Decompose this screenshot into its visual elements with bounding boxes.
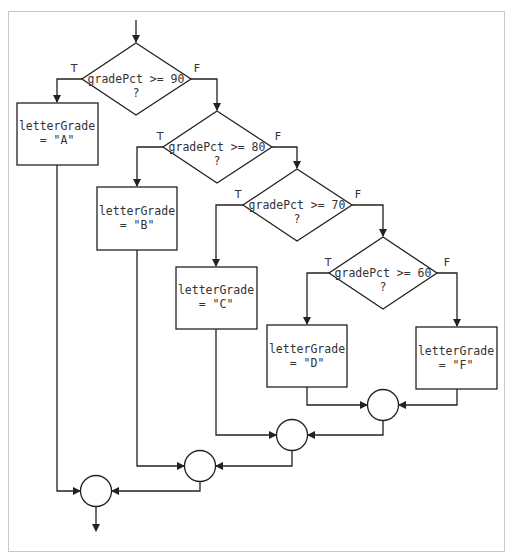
- junction-connector-1: [368, 390, 399, 421]
- false-label: F: [444, 256, 450, 269]
- process-assignment: = "D": [290, 356, 325, 370]
- edge-d4-true: [307, 273, 329, 324]
- decision-question-mark: ?: [214, 154, 221, 168]
- edge-d3-false: [352, 205, 383, 236]
- process-variable: letterGrade: [269, 342, 345, 356]
- process-assignment: = "B": [120, 218, 155, 232]
- process-variable: letterGrade: [19, 119, 95, 133]
- process-assignment: = "A": [40, 133, 75, 147]
- edge-d2-false: [272, 147, 297, 168]
- decision-node-60: gradePct >= 60 ?: [329, 237, 437, 309]
- process-variable: letterGrade: [178, 283, 254, 297]
- process-variable: letterGrade: [99, 204, 175, 218]
- process-node-b: letterGrade = "B": [97, 187, 177, 250]
- false-label: F: [275, 130, 281, 143]
- edge-d1-true: [57, 79, 82, 102]
- edge-j3-to-j4: [112, 482, 200, 491]
- decision-condition: gradePct >= 60: [335, 266, 432, 280]
- edge-j1-to-j2: [308, 421, 383, 435]
- false-label: F: [194, 62, 200, 75]
- true-label: T: [156, 130, 164, 143]
- false-label: F: [355, 188, 361, 201]
- decision-question-mark: ?: [294, 212, 301, 226]
- process-assignment: = "F": [439, 358, 474, 372]
- edge-d2-true: [137, 147, 163, 186]
- flowchart: gradePct >= 90 ? T F letterGrade = "A" g…: [0, 0, 517, 555]
- junction-connector-4: [81, 476, 112, 507]
- true-label: T: [234, 188, 242, 201]
- process-node-a: letterGrade = "A": [17, 103, 98, 165]
- process-node-c: letterGrade = "C": [176, 267, 257, 329]
- true-label: T: [324, 256, 332, 269]
- decision-condition: gradePct >= 70: [249, 198, 346, 212]
- process-node-d: letterGrade = "D": [267, 325, 347, 387]
- edge-d1-false: [191, 79, 217, 110]
- process-node-f: letterGrade = "F": [416, 327, 497, 389]
- edge-a-to-j4: [57, 165, 80, 491]
- decision-question-mark: ?: [380, 280, 387, 294]
- decision-node-80: gradePct >= 80 ?: [163, 111, 272, 183]
- decision-condition: gradePct >= 80: [169, 140, 266, 154]
- process-assignment: = "C": [199, 297, 234, 311]
- decision-node-70: gradePct >= 70 ?: [243, 169, 352, 241]
- junction-connector-3: [185, 451, 216, 482]
- decision-condition: gradePct >= 90: [88, 72, 185, 86]
- process-variable: letterGrade: [418, 344, 494, 358]
- edge-d-to-j1: [307, 387, 367, 405]
- edge-j2-to-j3: [216, 451, 292, 466]
- edge-d3-true: [216, 205, 243, 266]
- junction-connector-2: [277, 420, 308, 451]
- true-label: T: [70, 62, 78, 75]
- edge-d4-false: [437, 273, 457, 326]
- edge-f-to-j1: [399, 389, 457, 405]
- decision-question-mark: ?: [133, 86, 140, 100]
